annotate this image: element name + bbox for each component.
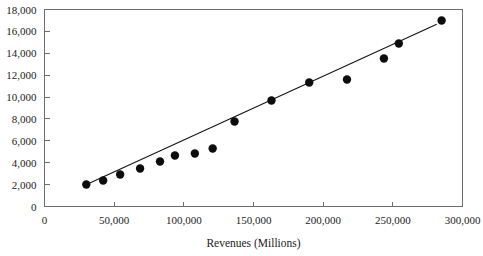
data-point: [208, 144, 216, 152]
y-tick-label: 8,000: [12, 113, 37, 125]
y-tick-label: 12,000: [6, 69, 37, 81]
x-axis-title: Revenues (Millions): [206, 237, 300, 250]
y-tick-label: 14,000: [6, 47, 37, 59]
data-point: [267, 96, 275, 104]
y-tick-label: 16,000: [6, 25, 37, 37]
x-tick-label: 200,000: [305, 214, 341, 226]
x-tick-label: 0: [42, 214, 48, 226]
data-point: [343, 75, 351, 83]
x-tick-label: 150,000: [236, 214, 272, 226]
data-point: [437, 16, 445, 24]
data-point: [171, 151, 179, 159]
y-tick-label: 10,000: [6, 91, 37, 103]
chart-container: 02,0004,0006,0008,00010,00012,00014,0001…: [0, 0, 483, 256]
y-tick-label: 18,000: [6, 4, 37, 16]
x-tick-label: 50,000: [99, 214, 130, 226]
data-point: [305, 78, 313, 86]
data-point: [116, 170, 124, 178]
data-point: [82, 180, 90, 188]
revenues-scatter-chart: 02,0004,0006,0008,00010,00012,00014,0001…: [0, 0, 483, 256]
data-point: [191, 149, 199, 157]
data-point: [136, 164, 144, 172]
y-tick-label: 0: [31, 201, 37, 213]
data-point: [99, 176, 107, 184]
y-tick-label: 2,000: [12, 179, 37, 191]
x-tick-label: 300,000: [445, 214, 481, 226]
data-point: [230, 117, 238, 125]
data-point: [380, 54, 388, 62]
data-point: [156, 157, 164, 165]
data-point: [395, 39, 403, 47]
x-tick-label: 100,000: [166, 214, 202, 226]
x-tick-label: 250,000: [375, 214, 411, 226]
y-tick-label: 4,000: [12, 157, 37, 169]
y-tick-label: 6,000: [12, 135, 37, 147]
